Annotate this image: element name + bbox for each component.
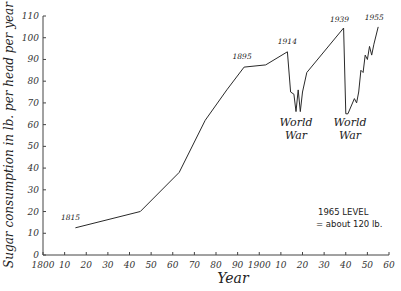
y-tick-label: 80 [28,76,40,86]
x-tick-label: 60 [383,260,395,270]
y-tick-label: 50 [28,141,40,151]
y-tick-label: 40 [27,163,40,173]
point-label: 1815 [61,213,80,222]
x-tick-label: 20 [80,260,93,270]
x-tick-label: 50 [362,260,374,270]
x-tick-label: 70 [189,260,201,270]
x-tick-label: 30 [102,260,114,270]
x-tick-label: 40 [123,260,136,270]
x-tick-label: 10 [275,260,287,270]
war-label-1: World [280,116,313,129]
x-tick-label: 40 [339,260,352,270]
y-tick-label: 0 [33,250,39,260]
y-tick-label: 30 [28,185,40,195]
x-tick-label: 1900 [248,260,271,270]
x-tick-label: 20 [296,260,309,270]
point-label: 1955 [365,13,384,22]
note-1965-level: 1965 LEVEL [318,207,369,217]
y-tick-label: 90 [28,54,40,64]
x-tick-label: 50 [145,260,157,270]
x-tick-label: 30 [318,260,330,270]
war-label-2: World [334,116,367,129]
y-tick-label: 100 [22,33,39,43]
x-tick-label: 80 [210,260,222,270]
y-tick-label: 60 [28,120,40,130]
y-tick-label: 110 [22,11,39,21]
point-label: 1939 [330,15,349,24]
point-label: 1895 [233,52,252,61]
x-tick-label: 10 [59,260,71,270]
point-label: 1914 [278,37,297,46]
y-tick-label: 70 [28,98,40,108]
y-axis-title: Sugar consumption in lb. per head per ye… [2,1,16,268]
x-tick-label: 90 [232,260,244,270]
x-tick-label: 60 [167,260,179,270]
sugar-consumption-chart: 1800102030405060708090190010203040506001… [0,0,401,291]
note-120lb: = about 120 lb. [316,219,382,229]
x-axis-title: Year [217,270,250,286]
war-label-2b: War [339,129,362,142]
x-tick-label: 1800 [32,260,55,270]
y-tick-label: 10 [28,228,40,238]
war-label-1b: War [285,129,308,142]
y-tick-label: 20 [27,207,40,217]
